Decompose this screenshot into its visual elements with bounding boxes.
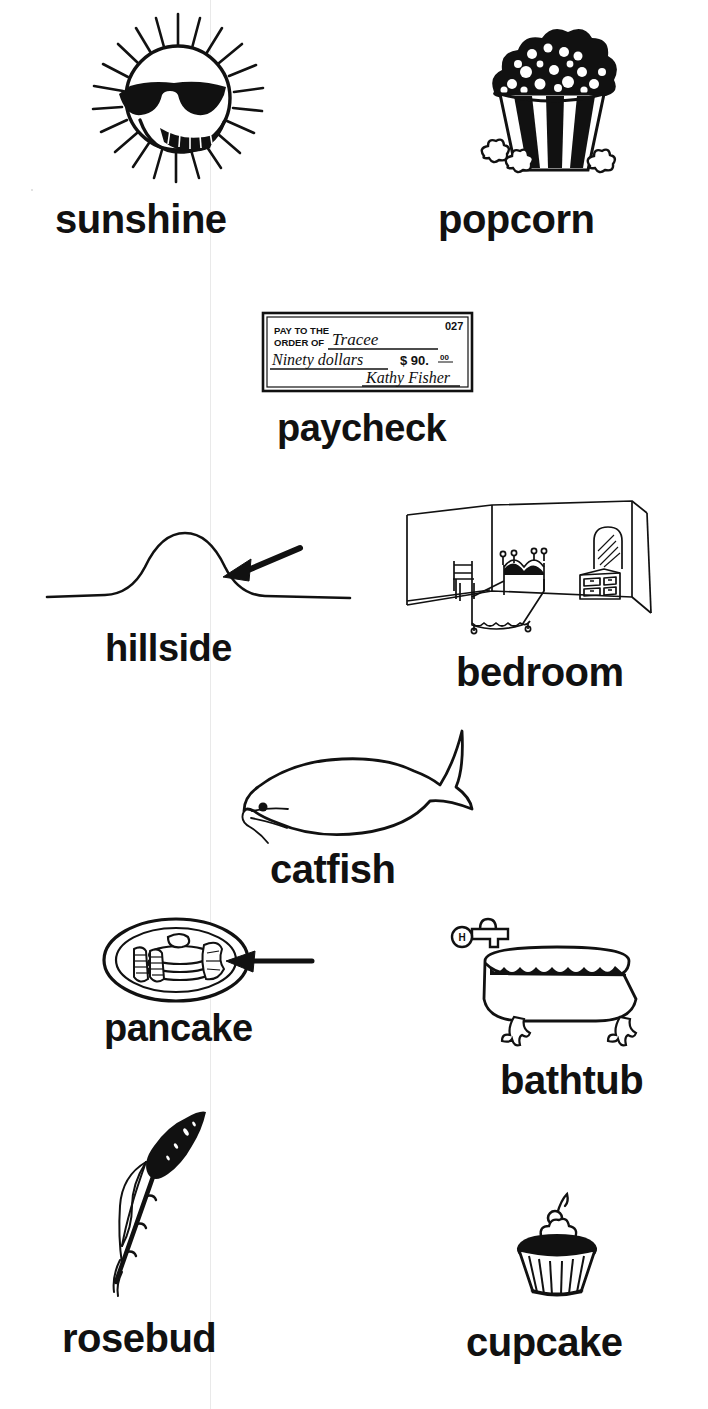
check-amount-figures: $ 90. xyxy=(400,353,429,368)
check-amount-words: Ninety dollars xyxy=(271,351,363,369)
paper-speck xyxy=(31,189,33,191)
check-pay-to-the: PAY TO THE xyxy=(274,325,329,336)
pancake-plate-icon xyxy=(100,915,315,1005)
catfish-icon xyxy=(230,725,460,850)
cupcake-with-cherry-icon xyxy=(505,1192,610,1302)
check-order-of: ORDER OF xyxy=(274,337,324,348)
check-number: 027 xyxy=(445,320,463,332)
popcorn-bucket-icon xyxy=(470,20,630,185)
label-bathtub: bathtub xyxy=(500,1060,643,1100)
faucet-hot-label: H xyxy=(458,932,465,943)
label-sunshine: sunshine xyxy=(55,199,227,239)
label-catfish: catfish xyxy=(270,849,395,889)
label-cupcake: cupcake xyxy=(466,1322,623,1362)
bedroom-interior-icon xyxy=(404,495,654,635)
label-rosebud: rosebud xyxy=(62,1318,216,1358)
rosebud-icon xyxy=(110,1110,235,1300)
pointer-arrow xyxy=(223,548,300,581)
check-signature: Kathy Fisher xyxy=(365,369,451,387)
worksheet-page: sunshine xyxy=(0,0,708,1409)
check-amount-cents: 00 xyxy=(440,353,449,362)
hill-with-arrow-icon xyxy=(45,515,355,615)
label-popcorn: popcorn xyxy=(438,199,594,239)
label-bedroom: bedroom xyxy=(456,652,624,692)
bank-check-icon: PAY TO THE ORDER OF 027 Tracee Ninety do… xyxy=(260,310,475,395)
sun-with-sunglasses-icon xyxy=(88,8,268,188)
label-hillside: hillside xyxy=(105,629,232,667)
check-payee: Tracee xyxy=(332,330,379,349)
label-paycheck: paycheck xyxy=(277,409,446,447)
clawfoot-bathtub-icon: H xyxy=(440,905,675,1045)
label-pancake: pancake xyxy=(104,1009,253,1047)
